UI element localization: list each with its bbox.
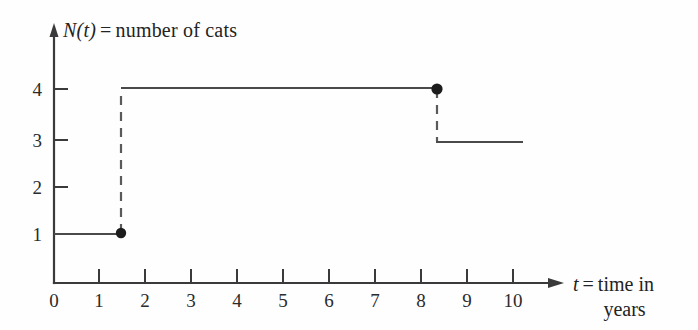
x-tick-label-6: 6	[315, 290, 343, 312]
x-axis-group	[54, 278, 564, 288]
x-axis-title-line1: time in	[598, 273, 654, 295]
x-axis-title-equals: =	[579, 273, 598, 295]
x-tick-label-5: 5	[269, 290, 297, 312]
y-tick-label-3: 3	[22, 130, 42, 152]
y-axis-group	[50, 23, 59, 283]
x-tick-label-1: 1	[85, 290, 113, 312]
y-axis-title-variable: N(t)	[63, 19, 96, 41]
x-tick-label-3: 3	[177, 290, 205, 312]
x-tick-label-8: 8	[407, 290, 435, 312]
endpoint-dot-b	[431, 83, 442, 94]
x-axis-title-line2: years	[573, 297, 654, 322]
endpoint-dot-a	[116, 228, 126, 238]
x-tick-label-7: 7	[361, 290, 389, 312]
x-tick-label-0: 0	[40, 290, 68, 312]
y-axis-title-text: number of cats	[116, 19, 238, 41]
y-axis-arrow-icon	[50, 23, 59, 37]
x-tick-label-4: 4	[223, 290, 251, 312]
y-tick-marks	[54, 89, 68, 234]
step-function-figure: N(t)=number of cats t=time in years 1 2 …	[0, 0, 698, 330]
y-tick-label-4: 4	[22, 79, 42, 101]
y-tick-label-1: 1	[22, 224, 42, 246]
x-tick-label-9: 9	[453, 290, 481, 312]
x-tick-label-10: 10	[499, 290, 527, 312]
step-function-curve	[54, 83, 523, 238]
y-axis-title-equals: =	[96, 19, 115, 41]
x-axis-title-variable: t	[573, 273, 579, 295]
x-tick-marks	[54, 269, 513, 283]
y-axis-title: N(t)=number of cats	[63, 19, 237, 42]
x-axis-title: t=time in years	[573, 272, 654, 322]
y-tick-label-2: 2	[22, 177, 42, 199]
x-tick-label-2: 2	[131, 290, 159, 312]
x-axis-arrow-icon	[548, 278, 564, 288]
